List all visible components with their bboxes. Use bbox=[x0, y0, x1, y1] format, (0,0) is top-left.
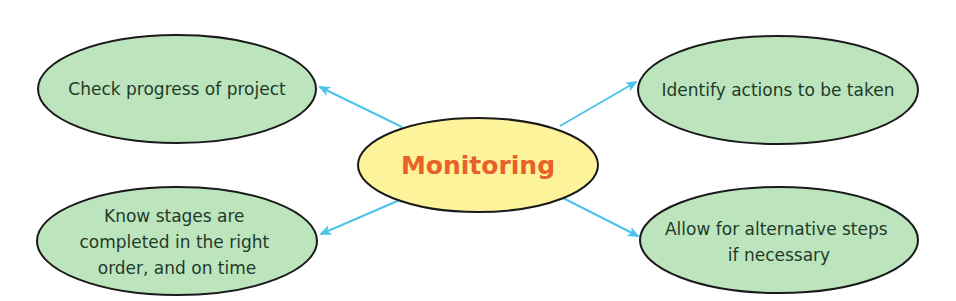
svg-text:Check progress of project: Check progress of project bbox=[68, 79, 286, 99]
arrow-to-identify-actions bbox=[560, 82, 636, 126]
center-node-monitoring: Monitoring bbox=[358, 118, 598, 212]
node-label: Check progress of project bbox=[68, 79, 286, 99]
mind-map-diagram: Check progress of project Know stages ar… bbox=[0, 0, 956, 301]
svg-text:Know stages are complete: Know stages are completed in the right o… bbox=[79, 206, 274, 278]
node-label: Identify actions to be taken bbox=[662, 80, 895, 100]
arrow-to-check-progress bbox=[320, 87, 402, 127]
node-label-line-3: order, and on time bbox=[98, 258, 257, 278]
node-label-line-1: Know stages are bbox=[104, 206, 245, 226]
node-allow-alternatives: Allow for alternative steps if necessary bbox=[640, 187, 918, 293]
node-label-line-1: Allow for alternative steps bbox=[665, 219, 888, 239]
arrow-to-allow-alternatives bbox=[563, 198, 638, 236]
center-label: Monitoring bbox=[401, 151, 555, 180]
node-check-progress: Check progress of project bbox=[38, 35, 316, 143]
node-ellipse bbox=[640, 187, 918, 293]
arrow-to-know-stages bbox=[321, 199, 402, 234]
svg-text:Monitoring: Monitoring bbox=[401, 151, 555, 180]
node-label-line-2: if necessary bbox=[728, 245, 830, 265]
node-know-stages: Know stages are completed in the right o… bbox=[37, 187, 317, 295]
svg-text:Identify actions to be taken: Identify actions to be taken bbox=[662, 80, 895, 100]
node-identify-actions: Identify actions to be taken bbox=[638, 36, 918, 144]
node-label-line-2: completed in the right bbox=[79, 232, 269, 252]
